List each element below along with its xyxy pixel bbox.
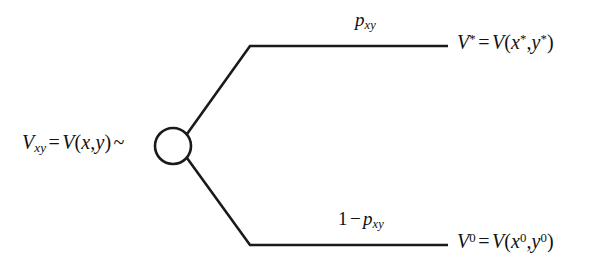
outcome-close-paren-down: ) (547, 230, 554, 252)
chance-node-circle (155, 128, 191, 164)
outcome-arg-x-down: x (511, 230, 520, 252)
outcome-arg-y-superscript-down: 0 (540, 231, 546, 245)
source-tilde: ~ (111, 131, 127, 153)
outcome-close-paren-up: ) (547, 31, 554, 53)
source-subscript: xy (34, 140, 46, 155)
probability-one-down: 1 (338, 208, 348, 229)
probability-p-down: p (363, 208, 373, 229)
outcome-open-paren-up: ( (504, 31, 511, 53)
branch-path-up (187, 46, 448, 134)
branch-probability-down: 1−pxy (338, 209, 384, 228)
source-function: V (62, 131, 74, 153)
outcome-equals-up: = (476, 31, 492, 53)
outcome-v-up: V (457, 31, 469, 53)
outcome-arg-x-up: x (511, 31, 520, 53)
outcome-function-down: V (492, 230, 504, 252)
outcome-label-up: V*=V(x*,y*) (457, 32, 554, 52)
branch-probability-up: pxy (355, 10, 376, 29)
outcome-function-up: V (492, 31, 504, 53)
outcome-arg-y-superscript-up: * (540, 32, 546, 46)
probability-subscript-up: xy (365, 18, 376, 32)
source-arg-x: x (81, 131, 90, 153)
outcome-equals-down: = (476, 230, 492, 252)
outcome-arg-x-superscript-up: * (520, 32, 526, 46)
outcome-superscript-up: * (469, 32, 475, 46)
probability-minus-down: − (348, 208, 363, 229)
outcome-superscript-down: 0 (469, 231, 475, 245)
branch-path-down (187, 158, 448, 245)
source-v: V (22, 131, 34, 153)
probability-p-up: p (355, 9, 365, 30)
outcome-open-paren-down: ( (504, 230, 511, 252)
binomial-branch-figure: Vxy=V(x,y)~ pxy 1−pxy V*=V(x*,y*) V0=V(x… (0, 0, 600, 276)
source-node-label: Vxy=V(x,y)~ (22, 132, 127, 152)
probability-subscript-down: xy (373, 217, 384, 231)
source-equals: = (46, 131, 62, 153)
outcome-arg-x-superscript-down: 0 (520, 231, 526, 245)
outcome-label-down: V0=V(x0,y0) (457, 231, 554, 251)
outcome-v-down: V (457, 230, 469, 252)
